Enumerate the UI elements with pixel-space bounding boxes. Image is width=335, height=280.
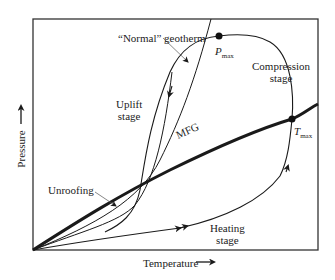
heating-to-tmax-path bbox=[280, 119, 292, 176]
pmax-label-sub: max bbox=[222, 52, 234, 60]
heating-upward-arrow bbox=[286, 166, 288, 172]
heating-stage-line2: stage bbox=[210, 234, 245, 246]
heating-stage-line1: Heating bbox=[210, 222, 245, 234]
heating-stage-label: Heating stage bbox=[210, 222, 245, 246]
pmax-label: Pmax bbox=[215, 45, 234, 62]
uplift-stage-label: Uplift stage bbox=[116, 98, 142, 122]
compression-stage-label: Compression stage bbox=[252, 60, 310, 84]
uplift-stage-line1: Uplift bbox=[116, 98, 142, 110]
uplift-stage-line2: stage bbox=[116, 110, 142, 122]
tmax-label-sub: max bbox=[300, 132, 312, 140]
pmax-label-main: P bbox=[215, 45, 222, 57]
unroofing-curve bbox=[33, 72, 172, 250]
geotherm-label: “Normal” geotherm bbox=[118, 32, 206, 44]
x-axis-label: Temperature bbox=[143, 257, 198, 269]
unroofing-label: Unroofing bbox=[48, 184, 94, 196]
compression-stage-line2: stage bbox=[252, 72, 310, 84]
y-axis-label: Pressure bbox=[15, 114, 27, 184]
compression-stage-line1: Compression bbox=[252, 60, 310, 72]
tmax-label: Tmax bbox=[294, 125, 312, 142]
mfg-label: MFG bbox=[174, 120, 201, 141]
tmax-point bbox=[289, 116, 296, 123]
pmax-point bbox=[216, 33, 223, 40]
